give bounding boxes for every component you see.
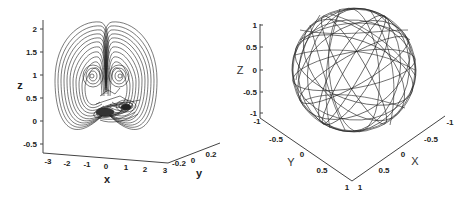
right-y-tick: 0.5 [316,166,328,175]
right-z-tick: 1 [253,21,258,30]
left-x-label: x [104,173,111,185]
right-z-tick: 0.5 [246,43,258,52]
left-y-tick: 0.2 [205,150,217,159]
right-plot: 1 0.5 0 -0.5 -1 Z -1 -0.5 0 0.5 1 Y -1 -… [237,0,454,192]
left-plot: 2 1.5 1 0.5 0 -0.5 z -3 -2 -1 0 1 2 3 x … [17,20,220,185]
right-sphere-trajectory [279,0,429,144]
left-y-tick: -0.2 [172,159,186,168]
right-y-tick: -0.5 [269,135,283,144]
right-x-axis [352,116,445,181]
left-z-label: z [17,79,23,91]
figure: 2 1.5 1 0.5 0 -0.5 z -3 -2 -1 0 1 2 3 x … [0,0,468,199]
right-x-tick: 1 [358,183,363,192]
left-y-label: y [196,167,203,179]
right-y-axis [260,118,352,181]
left-z-tick: 1.5 [26,48,38,57]
right-y-label: Y [287,156,295,168]
right-z-tick: 0 [253,66,258,75]
left-z-tick: 0 [33,117,38,126]
right-x-tick: -1 [446,118,454,127]
left-x-tick: -2 [63,159,71,168]
left-x-tick: 3 [163,166,168,175]
left-x-tick: -3 [44,157,52,166]
left-z-tick: 0.5 [26,94,38,103]
right-x-tick: -0.5 [424,135,438,144]
left-x-tick: 1 [124,163,129,172]
left-y-tick: 0 [191,156,196,165]
right-z-label: Z [237,64,244,76]
left-z-tick: -0.5 [23,140,37,149]
left-z-tick: 1 [33,71,38,80]
right-x-tick: 0.5 [378,166,390,175]
left-x-tick: -1 [83,160,91,169]
right-x-label: X [411,155,419,167]
right-x-tick: 0 [401,150,406,159]
right-y-tick: 0 [300,150,305,159]
right-z-tick: -0.5 [243,88,257,97]
left-x-tick: 0 [104,162,109,171]
right-y-tick: -1 [253,117,261,126]
right-y-tick: 1 [345,183,350,192]
left-z-tick: 2 [33,25,38,34]
left-x-tick: 2 [143,165,148,174]
